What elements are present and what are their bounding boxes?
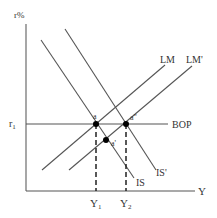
x-axis-label: Y (198, 185, 206, 197)
r1-label: r1 (9, 118, 16, 131)
is-prime-label: IS' (156, 167, 167, 178)
point-a-double-prime-label: a" (130, 113, 137, 122)
is-lm-bop-diagram: r% Y r1 BOP LM LM' IS IS' a a" a' (0, 0, 217, 218)
bop-label: BOP (172, 119, 192, 130)
point-a-prime (103, 137, 109, 143)
y2-label: Y2 (120, 197, 132, 211)
lm-label: LM (160, 54, 175, 65)
point-a-double-prime (123, 121, 129, 127)
y-axis-label: r% (14, 10, 25, 20)
is-curve (41, 40, 134, 178)
lm-prime-label: LM' (186, 54, 203, 65)
is-label: IS (136, 177, 145, 188)
point-a-prime-label: a' (111, 139, 117, 148)
lm-curve (42, 65, 165, 170)
point-a-label: a (93, 112, 97, 121)
y1-label: Y1 (90, 197, 102, 211)
is-prime-curve (65, 29, 156, 170)
point-a (93, 121, 99, 127)
